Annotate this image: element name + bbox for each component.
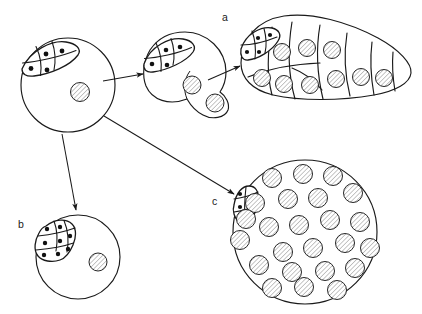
- vesicle: [309, 189, 328, 208]
- stage-a-body: [241, 15, 411, 99]
- arrow-initial-to-b: [62, 134, 76, 210]
- stage-b-cell: [35, 215, 120, 299]
- germ-nucleus: [245, 50, 249, 54]
- germ-nucleus: [56, 252, 60, 256]
- vesicle: [250, 256, 269, 275]
- arrow-initial-to-c: [104, 116, 234, 194]
- stage-initial-cell: [21, 38, 115, 132]
- vesicle: [336, 234, 355, 253]
- vesicle: [274, 44, 291, 61]
- vesicle: [328, 71, 345, 88]
- vesicle: [351, 213, 370, 232]
- vesicle: [254, 70, 271, 87]
- stage-intermediate-cell: [144, 32, 229, 118]
- vesicle: [302, 77, 319, 94]
- vesicle: [376, 70, 393, 87]
- vesicle: [263, 169, 282, 188]
- germ-nucleus: [45, 68, 50, 73]
- germ-nucleus: [68, 234, 72, 238]
- germ-nucleus: [164, 48, 169, 53]
- germ-nucleus: [42, 253, 46, 257]
- vesicle: [321, 211, 340, 230]
- germ-nucleus: [256, 36, 260, 40]
- vesicle: [89, 253, 107, 271]
- germ-nucleus: [44, 52, 49, 57]
- vesicle: [295, 278, 314, 297]
- vesicle: [324, 42, 341, 59]
- germ-cell-development-diagram: a b c: [0, 0, 422, 314]
- vesicle: [328, 281, 347, 300]
- vesicle: [324, 167, 343, 186]
- germ-nucleus: [178, 45, 183, 50]
- germ-nucleus: [268, 33, 272, 37]
- germ-nucleus: [165, 63, 170, 68]
- label-a: a: [222, 11, 228, 23]
- vesicle: [294, 165, 313, 184]
- vesicle: [237, 210, 256, 229]
- germ-nucleus: [29, 66, 34, 71]
- germ-nucleus: [150, 62, 155, 67]
- vesicle: [299, 40, 316, 57]
- stage-c-cell: [231, 160, 380, 304]
- germ-nucleus: [45, 227, 49, 231]
- vesicle: [353, 69, 370, 86]
- germ-nucleus: [43, 241, 47, 245]
- germ-nucleus: [58, 225, 62, 229]
- germ-nucleus: [58, 239, 62, 243]
- germ-nucleus: [60, 49, 65, 54]
- vesicle: [344, 184, 363, 203]
- germ-nucleus: [238, 205, 242, 209]
- vesicle: [276, 76, 293, 93]
- label-b: b: [18, 218, 24, 230]
- germ-nucleus: [238, 192, 242, 196]
- vesicle: [279, 190, 298, 209]
- label-c: c: [212, 195, 217, 207]
- germ-nucleus: [257, 50, 261, 54]
- vesicle: [183, 76, 201, 94]
- vesicle: [346, 259, 365, 278]
- vesicle: [260, 218, 279, 237]
- vesicle: [316, 262, 335, 281]
- vesicle: [263, 279, 282, 298]
- vesicle: [361, 239, 380, 258]
- vesicle: [290, 216, 309, 235]
- diagram-canvas: a b c: [0, 0, 422, 314]
- vesicle: [231, 231, 250, 250]
- vesicle: [71, 83, 90, 102]
- germ-nucleus: [66, 247, 70, 251]
- vesicle: [274, 243, 293, 262]
- vesicle: [206, 94, 224, 112]
- vesicle: [304, 239, 323, 258]
